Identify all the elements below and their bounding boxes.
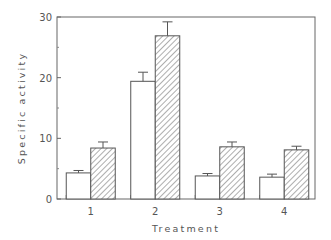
- x-tick-label: 2: [152, 206, 158, 217]
- y-tick-label: 30: [39, 12, 52, 23]
- bar-hatched-2: [155, 36, 180, 199]
- bar-open-2: [131, 81, 156, 199]
- bar-hatched-3: [220, 147, 245, 199]
- x-tick-label: 3: [217, 206, 223, 217]
- bar-hatched-4: [284, 150, 309, 199]
- bar-open-3: [195, 176, 220, 199]
- bar-open-4: [260, 177, 285, 199]
- y-tick-label: 20: [39, 73, 52, 84]
- y-tick-label: 0: [46, 194, 52, 205]
- bar-chart: 0102030 1234 Treatment Specific activity: [0, 0, 331, 240]
- x-tick-label: 1: [88, 206, 94, 217]
- x-tick-label: 4: [281, 206, 287, 217]
- bar-hatched-1: [91, 148, 116, 199]
- y-axis-label: Specific activity: [16, 52, 27, 164]
- y-tick-label: 10: [39, 133, 52, 144]
- bar-open-1: [66, 173, 91, 199]
- x-axis-label: Treatment: [151, 223, 220, 234]
